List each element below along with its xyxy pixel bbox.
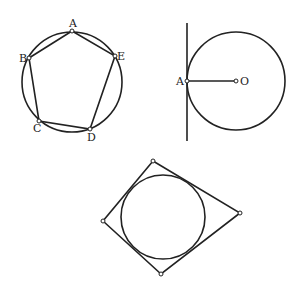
- point-label: O: [240, 75, 249, 88]
- vertex-point: [234, 79, 238, 83]
- vertex-point: [151, 159, 155, 163]
- point-label: A: [175, 75, 185, 88]
- vertex-point: [238, 211, 242, 215]
- polygon: [29, 31, 115, 129]
- circumscribed-quadrilateral-figure: [101, 159, 242, 276]
- point-label: E: [117, 50, 125, 63]
- circle: [121, 175, 205, 259]
- circle: [22, 32, 122, 132]
- vertex-point: [159, 272, 163, 276]
- vertex-point: [185, 79, 189, 83]
- tangent-line-figure: AO: [175, 23, 285, 141]
- vertex-point: [101, 219, 105, 223]
- polygon: [103, 161, 240, 274]
- geometry-diagram: AEDCB AO: [0, 0, 300, 291]
- vertex-point: [27, 56, 31, 60]
- point-label: A: [68, 17, 78, 30]
- point-label: C: [33, 122, 41, 135]
- point-label: B: [19, 52, 27, 65]
- inscribed-pentagon-figure: AEDCB: [19, 17, 125, 144]
- point-label: D: [87, 131, 96, 144]
